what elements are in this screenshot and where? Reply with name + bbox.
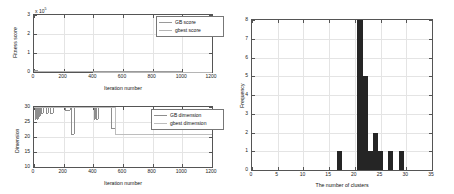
legend-label-gb-dimension: GB dimension xyxy=(170,112,201,118)
legend-swatch-gb-dimension xyxy=(154,115,167,116)
x-axis-tick xyxy=(381,20,382,23)
gridline-horizontal xyxy=(252,95,432,96)
x-axis-tick-label: 1000 xyxy=(176,168,187,174)
fitness-y-exponent-power: 5 xyxy=(44,7,46,11)
x-axis-tick-label: 25 xyxy=(377,171,383,177)
series-segment xyxy=(43,107,64,108)
series-segment xyxy=(64,107,97,108)
series-segment xyxy=(115,107,116,134)
fitness-y-axis-label: Fitness score xyxy=(12,27,18,58)
x-axis-tick-label: 800 xyxy=(147,168,155,174)
cluster-histogram: Frequency The number of clusters 0510152… xyxy=(230,0,454,194)
x-axis-tick xyxy=(355,20,356,23)
y-axis-tick-label: 25 xyxy=(19,118,30,124)
y-axis-tick-label: 2 xyxy=(19,30,30,36)
y-axis-tick-label: 8 xyxy=(237,16,248,22)
histogram-bar xyxy=(388,151,393,170)
x-axis-tick-label: 30 xyxy=(403,171,409,177)
x-axis-tick xyxy=(303,167,304,170)
y-axis-tick xyxy=(429,39,432,40)
fitness-x-axis-label: Iteration number xyxy=(104,85,142,91)
dimension-x-axis-label: Iteration number xyxy=(104,180,142,186)
gridline-horizontal xyxy=(252,133,432,134)
series-segment xyxy=(182,134,212,135)
x-axis-tick-label: 600 xyxy=(118,168,126,174)
x-axis-tick xyxy=(329,167,330,170)
histogram-bar xyxy=(378,151,383,170)
x-axis-tick-label: 200 xyxy=(58,73,66,79)
legend-swatch-gbest-dimension xyxy=(154,123,167,124)
y-axis-tick-label: 20 xyxy=(19,133,30,139)
x-axis-tick xyxy=(212,69,213,72)
legend-swatch-gb-score xyxy=(159,22,172,23)
x-axis-tick-label: 5 xyxy=(275,171,278,177)
gridline-horizontal xyxy=(252,39,432,40)
y-axis-tick-label: 4 xyxy=(237,91,248,97)
x-axis-tick-label: 600 xyxy=(118,73,126,79)
x-axis-tick-label: 800 xyxy=(147,73,155,79)
y-axis-tick xyxy=(429,95,432,96)
x-axis-tick xyxy=(432,167,433,170)
matlab-figure: x 105 Fitness score Iteration number GB … xyxy=(0,0,454,194)
y-axis-tick-label: 15 xyxy=(19,148,30,154)
x-axis-tick-label: 0 xyxy=(32,168,35,174)
legend-item-gbest-dimension: gbest dimension xyxy=(154,119,221,127)
y-axis-tick xyxy=(252,20,255,21)
gridline-horizontal xyxy=(252,151,432,152)
gridline-horizontal xyxy=(252,76,432,77)
x-axis-tick xyxy=(432,20,433,23)
fitness-score-plot: x 105 Fitness score Iteration number GB … xyxy=(0,0,230,95)
x-axis-tick xyxy=(278,167,279,170)
x-axis-tick xyxy=(212,164,213,167)
y-axis-tick xyxy=(252,76,255,77)
y-axis-tick xyxy=(252,39,255,40)
legend-item-gb-dimension: GB dimension xyxy=(154,111,221,119)
gridline-horizontal xyxy=(252,114,432,115)
histogram-axes xyxy=(251,19,433,171)
legend-label-gbest-score: gbest score xyxy=(175,27,201,33)
y-axis-tick xyxy=(429,133,432,134)
x-axis-tick-label: 400 xyxy=(88,73,96,79)
y-axis-tick-label: 0 xyxy=(237,166,248,172)
y-axis-tick-label: 1 xyxy=(19,49,30,55)
y-axis-tick-label: 6 xyxy=(237,54,248,60)
y-axis-tick-label: 3 xyxy=(237,110,248,116)
y-axis-tick xyxy=(252,95,255,96)
y-axis-tick xyxy=(252,151,255,152)
y-axis-tick xyxy=(252,114,255,115)
histogram-x-axis-label: The number of clusters xyxy=(315,182,368,188)
x-axis-tick-label: 10 xyxy=(300,171,306,177)
x-axis-tick-label: 1200 xyxy=(205,73,216,79)
x-axis-tick-label: 1200 xyxy=(205,168,216,174)
x-axis-tick xyxy=(355,167,356,170)
legend-label-gb-score: GB score xyxy=(175,19,196,25)
y-axis-tick xyxy=(429,114,432,115)
x-axis-tick xyxy=(329,20,330,23)
fitness-legend: GB score gbest score xyxy=(156,16,224,37)
series-segment xyxy=(115,134,182,135)
x-axis-tick xyxy=(406,20,407,23)
y-axis-tick xyxy=(429,20,432,21)
legend-item-gb-score: GB score xyxy=(159,18,221,26)
y-axis-tick-label: 0 xyxy=(19,68,30,74)
y-axis-tick-label: 30 xyxy=(19,103,30,109)
x-axis-tick xyxy=(406,167,407,170)
series-segment xyxy=(96,107,115,108)
y-axis-tick-label: 10 xyxy=(19,163,30,169)
x-axis-tick-label: 20 xyxy=(351,171,357,177)
x-axis-tick-label: 15 xyxy=(325,171,331,177)
legend-item-gbest-score: gbest score xyxy=(159,26,221,34)
y-axis-tick-label: 5 xyxy=(237,72,248,78)
legend-label-gbest-dimension: gbest dimension xyxy=(170,120,206,126)
y-axis-tick xyxy=(429,151,432,152)
x-axis-tick-label: 200 xyxy=(58,168,66,174)
y-axis-tick-label: 3 xyxy=(19,11,30,17)
x-axis-tick xyxy=(278,20,279,23)
x-axis-tick-label: 0 xyxy=(250,171,253,177)
y-axis-tick xyxy=(252,58,255,59)
series-segment xyxy=(43,71,56,72)
y-axis-tick-label: 7 xyxy=(237,35,248,41)
x-axis-tick-label: 0 xyxy=(32,73,35,79)
y-axis-tick xyxy=(252,133,255,134)
gridline-horizontal xyxy=(252,58,432,59)
